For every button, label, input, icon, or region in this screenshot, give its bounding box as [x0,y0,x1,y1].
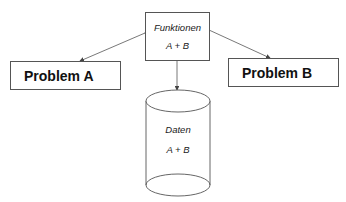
database-content: A + B [166,145,189,155]
database-title: Daten [165,125,190,135]
functions-content: A + B [166,41,189,51]
problem-b-label: Problem B [242,65,312,81]
edge-functions-problem-b [209,30,270,58]
functions-box: Funktionen A + B [145,12,210,61]
database-label: Daten A + B [146,125,210,154]
problem-a-label: Problem A [24,68,94,84]
edge-functions-problem-a [80,33,145,61]
functions-title: Funktionen [154,23,201,33]
problem-b-box: Problem B [228,58,339,87]
problem-a-box: Problem A [10,61,121,90]
